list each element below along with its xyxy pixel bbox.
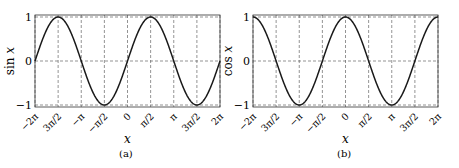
caption-b: (b) [337, 148, 351, 159]
x-tick-label: −π [287, 111, 305, 129]
x-tick-label: 3π/2 [179, 111, 202, 134]
x-tick-label: −2π [236, 111, 258, 133]
x-tick-label: 0 [121, 111, 133, 123]
x-tick-label: 3π/2 [397, 111, 420, 134]
x-tick-label: 2π [209, 111, 225, 127]
x-tick-label: −π/2 [303, 111, 327, 135]
x-axis-label: x [124, 132, 131, 146]
plots-canvas: −101−2π3π/2−π−π/20π/2π3π/22πxsin x−101−2… [0, 0, 459, 168]
caption-a: (a) [119, 148, 133, 159]
x-tick-label: π [167, 111, 179, 123]
y-tick-label: 0 [243, 55, 250, 68]
y-axis-label: cos x [221, 45, 235, 76]
x-tick-label: −π/2 [85, 111, 109, 135]
y-tick-label: 1 [243, 11, 250, 24]
plot-panel-b: −101−2π3π/2−π−π/20π/2π3π/22πxcos x [221, 11, 443, 146]
x-tick-label: π [385, 111, 397, 123]
plot-panel-a: −101−2π3π/2−π−π/20π/2π3π/22πxsin x [3, 11, 225, 146]
x-axis-label: x [342, 132, 349, 146]
y-tick-label: 1 [25, 11, 32, 24]
x-tick-label: 2π [427, 111, 443, 127]
x-tick-label: −2π [18, 111, 40, 133]
x-tick-label: 3π/2 [41, 111, 64, 134]
x-tick-label: 0 [339, 111, 351, 123]
x-tick-label: π/2 [355, 111, 374, 130]
figure: −101−2π3π/2−π−π/20π/2π3π/22πxsin x−101−2… [0, 0, 459, 168]
x-tick-label: −π [69, 111, 87, 129]
y-tick-label: 0 [25, 55, 32, 68]
x-tick-label: π/2 [137, 111, 156, 130]
x-tick-label: 3π/2 [259, 111, 282, 134]
y-tick-label: −1 [234, 99, 250, 112]
y-axis-label: sin x [3, 47, 17, 76]
y-tick-label: −1 [16, 99, 32, 112]
